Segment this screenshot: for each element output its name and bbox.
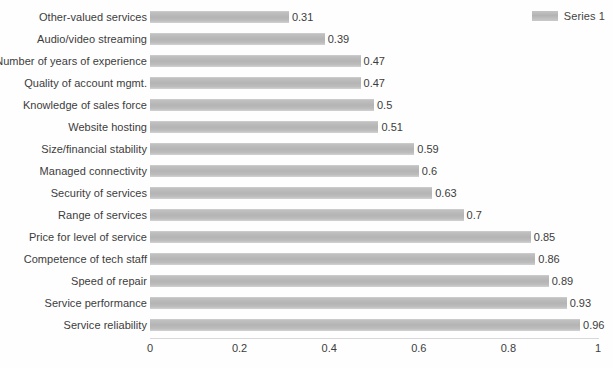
bar-value-label: 0.7 <box>464 204 482 226</box>
bar-row: Website hosting0.51 <box>0 116 613 138</box>
category-label: Price for level of service <box>29 226 147 248</box>
category-label: Security of services <box>51 182 147 204</box>
bar-row: Speed of repair0.89 <box>0 270 613 292</box>
x-axis-tick-label: 0.8 <box>501 342 516 354</box>
bar-value-label: 0.93 <box>567 292 591 314</box>
bar[interactable] <box>150 11 289 23</box>
bar-row: Knowledge of sales force0.5 <box>0 94 613 116</box>
bar[interactable] <box>150 231 531 243</box>
bar-value-label: 0.96 <box>580 314 604 336</box>
bar-row: Security of services0.63 <box>0 182 613 204</box>
category-label: Range of services <box>58 204 147 226</box>
x-axis-tick-label: 0.4 <box>322 342 337 354</box>
bar[interactable] <box>150 319 580 331</box>
bar-chart: Series 1 Other-valued services0.31Audio/… <box>0 0 613 368</box>
category-label: Managed connectivity <box>40 160 147 182</box>
bar-row: Other-valued services0.31 <box>0 6 613 28</box>
bar-value-label: 0.31 <box>289 6 313 28</box>
bar-value-label: 0.59 <box>414 138 438 160</box>
bar-value-label: 0.89 <box>549 270 573 292</box>
category-label: Audio/video streaming <box>37 28 147 50</box>
bar[interactable] <box>150 209 464 221</box>
bar-row: Managed connectivity0.6 <box>0 160 613 182</box>
bar-row: Competence of tech staff0.86 <box>0 248 613 270</box>
bar[interactable] <box>150 275 549 287</box>
bar-value-label: 0.39 <box>325 28 349 50</box>
bar[interactable] <box>150 33 325 45</box>
x-axis-tick-label: 0.6 <box>411 342 426 354</box>
bar[interactable] <box>150 143 414 155</box>
bar[interactable] <box>150 165 419 177</box>
bar-value-label: 0.5 <box>374 94 392 116</box>
bar[interactable] <box>150 99 374 111</box>
bar-row: Range of services0.7 <box>0 204 613 226</box>
bar-value-label: 0.86 <box>535 248 559 270</box>
bar-value-label: 0.51 <box>378 116 402 138</box>
bar-value-label: 0.6 <box>419 160 437 182</box>
category-label: Speed of repair <box>71 270 147 292</box>
bar-row: Size/financial stability0.59 <box>0 138 613 160</box>
x-axis-tick-label: 1 <box>595 342 601 354</box>
bar-row: Service reliability0.96 <box>0 314 613 336</box>
category-label: Service performance <box>45 292 147 314</box>
category-label: Service reliability <box>64 314 147 336</box>
category-label: Number of years of experience <box>0 50 147 72</box>
x-axis-tick-label: 0 <box>147 342 153 354</box>
bar-value-label: 0.47 <box>361 72 385 94</box>
bar-row: Audio/video streaming0.39 <box>0 28 613 50</box>
category-label: Size/financial stability <box>41 138 147 160</box>
bar[interactable] <box>150 297 567 309</box>
bar-value-label: 0.63 <box>432 182 456 204</box>
category-label: Other-valued services <box>39 6 147 28</box>
category-label: Knowledge of sales force <box>23 94 147 116</box>
bar-row: Number of years of experience0.47 <box>0 50 613 72</box>
bar-row: Service performance0.93 <box>0 292 613 314</box>
x-axis-tick-label: 0.2 <box>232 342 247 354</box>
bar[interactable] <box>150 253 535 265</box>
category-label: Quality of account mgmt. <box>24 72 147 94</box>
bar[interactable] <box>150 55 361 67</box>
x-axis-line <box>150 338 599 339</box>
bar-row: Quality of account mgmt.0.47 <box>0 72 613 94</box>
bar-value-label: 0.47 <box>361 50 385 72</box>
plot-area: Other-valued services0.31Audio/video str… <box>0 0 613 340</box>
bar[interactable] <box>150 121 378 133</box>
category-label: Website hosting <box>68 116 147 138</box>
bar[interactable] <box>150 77 361 89</box>
bar[interactable] <box>150 187 432 199</box>
bar-row: Price for level of service0.85 <box>0 226 613 248</box>
category-label: Competence of tech staff <box>24 248 147 270</box>
bar-value-label: 0.85 <box>531 226 555 248</box>
